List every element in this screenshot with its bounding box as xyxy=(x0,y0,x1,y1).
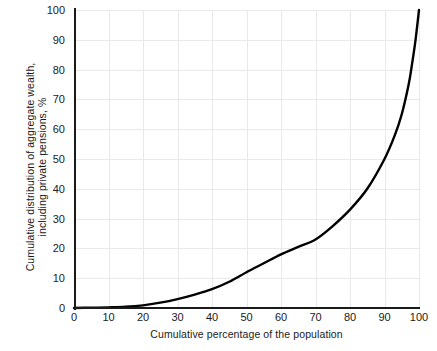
y-tick-label: 10 xyxy=(12,272,70,284)
gridline-vertical xyxy=(419,10,420,308)
plot-area xyxy=(74,10,419,308)
y-axis-line xyxy=(74,8,76,310)
y-tick-label: 20 xyxy=(12,242,70,254)
lorenz-curve-chart: Cumulative distribution of aggregate wea… xyxy=(0,0,437,351)
y-tick-label: 60 xyxy=(12,123,70,135)
y-tick-label: 50 xyxy=(12,153,70,165)
y-tick-label: 80 xyxy=(12,64,70,76)
x-axis-title: Cumulative percentage of the population xyxy=(74,328,419,340)
y-tick-label: 100 xyxy=(12,4,70,16)
x-tick-label: 100 xyxy=(399,311,437,323)
curve-svg xyxy=(74,10,419,308)
y-tick-label: 40 xyxy=(12,183,70,195)
x-axis-tick-labels: 0102030405060708090100 xyxy=(74,311,419,329)
wealth-distribution-curve xyxy=(74,10,419,308)
x-axis-line xyxy=(73,307,420,309)
y-tick-label: 90 xyxy=(12,34,70,46)
y-tick-label: 70 xyxy=(12,93,70,105)
y-axis-tick-labels: 0102030405060708090100 xyxy=(6,10,70,308)
y-tick-label: 30 xyxy=(12,213,70,225)
